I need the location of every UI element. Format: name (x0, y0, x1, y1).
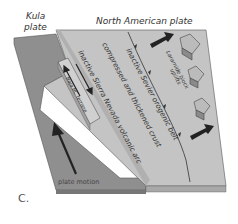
kula-plate-edge (56, 190, 146, 194)
kula-plate-label-line1: Kula (26, 11, 45, 21)
plate-motion-label: plate motion (58, 178, 99, 186)
north-american-plate-edge (146, 186, 226, 192)
tectonic-block-diagram: Kula plate North American plate Baja BC … (0, 0, 238, 224)
kula-plate-label-line2: plate (23, 22, 47, 32)
north-american-plate-label: North American plate (96, 16, 193, 26)
panel-label: C. (18, 192, 29, 205)
